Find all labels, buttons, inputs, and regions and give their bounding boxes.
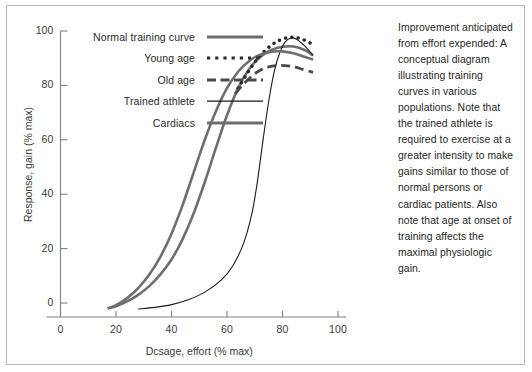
legend-item: Cardiacs bbox=[66, 112, 266, 134]
legend-item-label: Normal training curve bbox=[93, 31, 204, 43]
x-tick-label: 100 bbox=[308, 323, 368, 335]
x-tick-label: 40 bbox=[142, 323, 202, 335]
solid-thick-line-icon bbox=[204, 117, 266, 129]
y-tick-label: 80 bbox=[0, 78, 54, 90]
legend-item-label: Young age bbox=[144, 52, 204, 64]
legend-item: Normal training curve bbox=[66, 26, 266, 48]
y-axis-title: Response, gain (% max) bbox=[22, 107, 34, 222]
figure-caption: Improvement anticipated from effort expe… bbox=[398, 20, 514, 277]
figure-container: 020406080100020406080100 Response, gain … bbox=[0, 0, 532, 372]
legend-item: Old age bbox=[66, 69, 266, 91]
y-tick-label: 100 bbox=[0, 24, 54, 36]
y-tick-label: 0 bbox=[0, 296, 54, 308]
dashed-line-icon bbox=[204, 74, 266, 86]
dotted-line-icon bbox=[204, 52, 266, 64]
x-tick-label: 60 bbox=[197, 323, 257, 335]
x-tick-label: 80 bbox=[253, 323, 313, 335]
solid-thin-line-icon bbox=[204, 95, 266, 107]
legend-item: Trained athlete bbox=[66, 91, 266, 113]
x-tick-label: 0 bbox=[31, 323, 91, 335]
legend-item-label: Trained athlete bbox=[124, 95, 204, 107]
chart-legend: Normal training curve Young age Old age … bbox=[66, 26, 266, 134]
legend-item: Young age bbox=[66, 48, 266, 70]
x-tick-label: 20 bbox=[86, 323, 146, 335]
legend-item-label: Old age bbox=[158, 74, 204, 86]
x-axis-title: Dcsage, effort (% max) bbox=[129, 345, 269, 357]
legend-item-label: Cardiacs bbox=[153, 117, 204, 129]
solid-thick-line-icon bbox=[204, 31, 266, 43]
y-tick-label: 20 bbox=[0, 242, 54, 254]
